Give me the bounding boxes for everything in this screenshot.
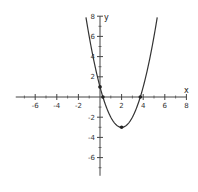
x-tick-label: 4 — [141, 102, 146, 110]
y-tick-label: 6 — [91, 33, 96, 41]
point-vertex — [120, 126, 124, 130]
y-tick-label: -2 — [88, 114, 95, 122]
x-tick-label: -6 — [32, 102, 40, 110]
x-tick-label: -4 — [53, 102, 61, 110]
x-tick-label: 6 — [163, 102, 168, 110]
x-axis-label: x — [184, 86, 189, 95]
ticks — [24, 16, 186, 168]
point-root-right — [138, 95, 142, 99]
y-tick-label: -4 — [88, 134, 96, 142]
point-y-intercept — [98, 85, 102, 89]
axes — [16, 16, 187, 176]
y-tick-label: -6 — [88, 154, 96, 162]
y-tick-label: 8 — [91, 13, 95, 21]
x-tick-label: 2 — [119, 102, 123, 110]
y-axis-label: y — [104, 13, 109, 22]
tick-labels: -6-4-224688642-2-4-6 — [32, 13, 189, 162]
x-tick-label: -2 — [75, 102, 82, 110]
y-tick-label: 2 — [91, 73, 95, 81]
x-tick-label: 8 — [184, 102, 188, 110]
parabola-plot: -6-4-224688642-2-4-6 x y — [0, 0, 198, 192]
point-root-left — [101, 95, 105, 99]
parabola-curve — [86, 17, 157, 127]
